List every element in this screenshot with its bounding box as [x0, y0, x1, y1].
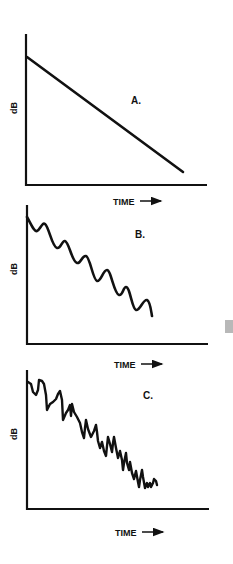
decay-noise-c [28, 380, 157, 488]
scroll-tab [225, 320, 233, 333]
decay-wave-b [27, 217, 152, 316]
x-axis-label-c: TIME [115, 528, 137, 538]
x-axis-label-a: TIME [113, 197, 135, 207]
decay-line-a [27, 57, 183, 172]
panel-label-c: C. [143, 390, 153, 401]
panel-b: B. dB TIME [9, 205, 208, 370]
x-axis-label-b: TIME [114, 360, 136, 370]
y-axis-label-a: dB [9, 102, 19, 114]
panel-a: A. dB TIME [9, 34, 207, 207]
panel-label-a: A. [131, 95, 141, 106]
decay-figure: A. dB TIME B. dB TIME C. dB TIME [0, 0, 233, 564]
panel-label-b: B. [135, 229, 145, 240]
panel-c: C. dB TIME [9, 370, 209, 538]
y-axis-label-b: dB [9, 263, 19, 275]
y-axis-label-c: dB [9, 428, 19, 440]
